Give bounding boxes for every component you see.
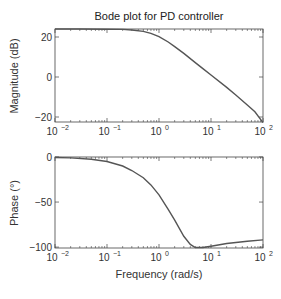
- svg-text:0: 0: [165, 250, 169, 257]
- chart-title: Bode plot for PD controller: [94, 10, 223, 22]
- svg-text:−1: −1: [113, 250, 121, 257]
- phase-axes-box: [55, 157, 263, 248]
- magnitude-panel: 10−210−1100101102200−20 Magnitude (dB): [8, 29, 273, 137]
- svg-text:1: 1: [217, 250, 221, 257]
- svg-text:−2: −2: [61, 124, 69, 131]
- svg-text:10: 10: [150, 252, 162, 263]
- svg-text:20: 20: [41, 32, 53, 43]
- frequency-xlabel: Frequency (rad/s): [116, 268, 203, 280]
- svg-text:0: 0: [46, 152, 52, 163]
- phase-ylabel: Phase (°): [8, 180, 20, 226]
- svg-text:10: 10: [98, 252, 110, 263]
- svg-text:2: 2: [269, 124, 273, 131]
- svg-text:10: 10: [254, 126, 266, 137]
- svg-text:0: 0: [46, 72, 52, 83]
- bode-figure: Bode plot for PD controller 10−210−11001…: [0, 0, 281, 299]
- phase-panel: 10−210−11001011020−50−100 Phase (°) Freq…: [8, 152, 273, 281]
- svg-text:−1: −1: [113, 124, 121, 131]
- svg-text:−100: −100: [29, 242, 52, 253]
- svg-text:−20: −20: [35, 112, 52, 123]
- svg-text:0: 0: [165, 124, 169, 131]
- svg-text:−2: −2: [61, 250, 69, 257]
- svg-text:−50: −50: [35, 197, 52, 208]
- svg-text:10: 10: [202, 252, 214, 263]
- svg-text:1: 1: [217, 124, 221, 131]
- svg-text:10: 10: [46, 252, 58, 263]
- svg-text:10: 10: [46, 126, 58, 137]
- svg-text:10: 10: [150, 126, 162, 137]
- svg-text:2: 2: [269, 250, 273, 257]
- magnitude-axes-box: [55, 29, 263, 122]
- magnitude-ylabel: Magnitude (dB): [8, 38, 20, 113]
- svg-text:10: 10: [254, 252, 266, 263]
- svg-text:10: 10: [98, 126, 110, 137]
- svg-text:10: 10: [202, 126, 214, 137]
